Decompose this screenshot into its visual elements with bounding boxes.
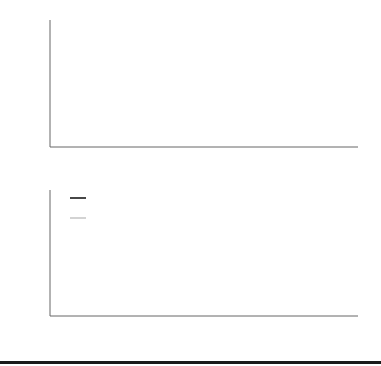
- bottom-rule: [0, 361, 381, 364]
- demand-order-chart: [50, 190, 358, 316]
- legend: [70, 198, 86, 218]
- figure: [0, 0, 381, 366]
- inventory-chart: [50, 20, 358, 147]
